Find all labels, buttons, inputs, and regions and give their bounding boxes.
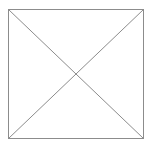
figure-canvas: Square with two diagonals A square outli… [0, 0, 154, 150]
square-diagonals-diagram [0, 0, 154, 150]
